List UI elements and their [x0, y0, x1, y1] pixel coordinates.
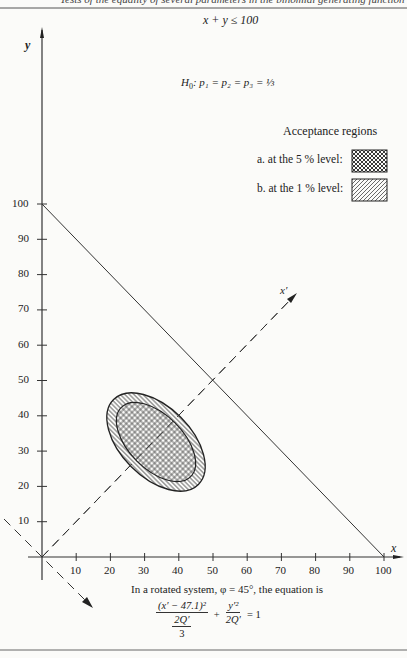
chart-canvas	[0, 0, 407, 658]
equation-term-2: y′² 2Q′	[226, 600, 241, 625]
y-tick-label: 10	[18, 514, 29, 526]
chart-title: x + y ≤ 100	[203, 13, 258, 28]
x-tick-label: 70	[275, 564, 286, 576]
y-tick-label: 20	[18, 479, 29, 491]
x-tick-label: 100	[375, 564, 392, 576]
equation-numerator-2: y′²	[226, 600, 240, 613]
y-tick-label: 40	[18, 408, 29, 420]
legend-title: Acceptance regions	[283, 124, 377, 139]
caption-text: In a rotated system, φ = 45°, the equati…	[131, 583, 323, 595]
x-axis	[28, 553, 404, 561]
y-tick-label: 80	[18, 267, 29, 279]
y-axis-label: y	[25, 38, 30, 53]
x-tick-label: 30	[138, 564, 149, 576]
y-tick-label: 60	[18, 338, 29, 350]
y-tick-label: 100	[12, 197, 29, 209]
legend-swatch-5pct	[352, 150, 387, 172]
x-tick-label: 40	[172, 564, 183, 576]
x-tick-label: 60	[241, 564, 252, 576]
equation-plus: +	[214, 609, 220, 620]
equation-equals: = 1	[247, 609, 261, 620]
x-axis-label: x	[391, 541, 396, 556]
legend-swatch-1pct	[352, 179, 387, 201]
x-tick-label: 50	[207, 564, 218, 576]
y-tick-label: 90	[18, 232, 29, 244]
hypothesis: H0: p₁ = p₂ = p₃ = ⅓	[181, 76, 274, 91]
equation-numerator-1: (x′ − 47.1)²	[156, 600, 208, 613]
equation: (x′ − 47.1)² 2Q′ 3 + y′² 2Q′ = 1	[156, 600, 261, 639]
equation-denominator-1-den: 3	[179, 627, 184, 639]
x-tick-label: 90	[343, 564, 354, 576]
x-prime-axis-label: x′	[280, 284, 287, 296]
legend-item-1pct: b. at the 1 % level:	[257, 182, 343, 194]
y-tick-label: 70	[18, 302, 29, 314]
equation-denominator-2: 2Q′	[226, 613, 241, 625]
y-tick-label: 50	[18, 373, 29, 385]
x-tick-label: 80	[309, 564, 320, 576]
legend-item-5pct: a. at the 5 % level:	[257, 153, 343, 165]
x-tick-label: 10	[70, 564, 81, 576]
x-tick-label: 20	[104, 564, 115, 576]
hypothesis-text: : p₁ = p₂ = p₃ = ⅓	[193, 76, 274, 88]
y-tick-label: 30	[18, 444, 29, 456]
equation-denominator-1-num: 2Q′	[172, 614, 191, 627]
hypothesis-prefix: H	[181, 76, 189, 88]
equation-term-1: (x′ − 47.1)² 2Q′ 3	[156, 600, 208, 639]
running-header: Tests of the equality of several paramet…	[60, 0, 405, 5]
y-axis	[37, 27, 47, 580]
y-axis-arrow-icon	[40, 27, 44, 38]
